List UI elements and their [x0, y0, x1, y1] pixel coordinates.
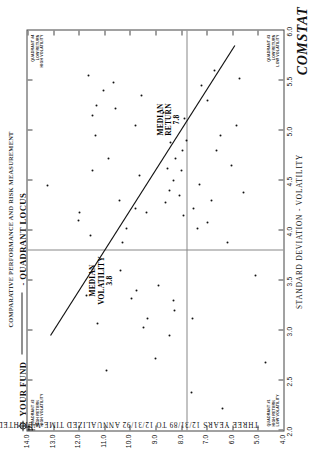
scatter-point — [183, 214, 185, 216]
y-axis-tick-label: 11.0 — [100, 434, 107, 455]
x-axis-tick — [28, 379, 33, 380]
y-axis-tick-label: 14.0 — [23, 434, 30, 455]
x-axis-tick — [279, 229, 284, 230]
scatter-point — [92, 169, 94, 171]
scatter-point — [155, 357, 157, 359]
legend-locus-rule — [21, 292, 22, 354]
x-axis-tick-label: 2.5 — [286, 376, 293, 386]
scatter-point — [213, 69, 215, 71]
quadrant-label-q4: QUADRANT #4 LOW RETURN HIGH VOLATILITY — [31, 34, 45, 67]
y-axis-tick — [284, 425, 285, 430]
quadrant-locus-line — [28, 30, 284, 430]
y-axis-tick-label: 12.0 — [74, 434, 81, 455]
quadrant-label-q3: QUADRANT #3 LOW RETURN LOW VOLATILITY — [266, 34, 280, 66]
y-axis-tick — [104, 30, 105, 35]
scatter-point — [169, 189, 171, 191]
x-axis-tick-label: 6.0 — [286, 26, 293, 36]
scatter-point — [181, 149, 183, 151]
median-return-value: 7.8 — [173, 93, 181, 145]
scatter-point — [89, 234, 91, 236]
scatter-point — [112, 81, 114, 83]
x-axis-tick — [279, 379, 284, 380]
scatter-point — [92, 114, 94, 116]
x-axis-tick — [28, 179, 33, 180]
y-axis-tick-label: 10.0 — [125, 434, 132, 455]
scatter-point — [139, 174, 141, 176]
median-volatility-text: MEDIAN VOLATILITY — [89, 254, 106, 306]
brand-logo: COMSTAT — [295, 6, 311, 75]
scatter-point — [180, 169, 182, 171]
scatter-point — [172, 299, 174, 301]
report-page: COMPARATIVE PERFORMANCE AND RISK MEASURE… — [3, 0, 316, 457]
quadrant-label-q1-number: QUADRANT #1 — [266, 394, 271, 426]
y-axis-tick — [53, 30, 54, 35]
scatter-point — [198, 183, 200, 185]
y-axis-tick-label: 4.0 — [279, 434, 286, 455]
y-axis-tick-label: 9.0 — [151, 434, 158, 455]
x-axis-tick — [279, 329, 284, 330]
x-axis-tick-label: 5.5 — [286, 76, 293, 86]
scatter-point — [125, 227, 127, 229]
scatter-point — [121, 241, 123, 243]
scatter-point — [172, 179, 174, 181]
x-axis-tick — [28, 279, 33, 280]
y-axis-title: THREE YEARS 12/31/89 TO 12/31/92 ANNUALI… — [59, 419, 259, 427]
scatter-point — [192, 317, 194, 319]
x-axis-tick — [28, 329, 33, 330]
scatter-plot-area[interactable]: QUADRANT #2 HIGH RETURN HIGH VOLATILITY … — [27, 29, 285, 431]
x-axis-tick — [279, 279, 284, 280]
quadrant-label-q3-number: QUADRANT #3 — [266, 34, 271, 66]
y-axis-tick — [130, 30, 131, 35]
y-axis-tick — [79, 30, 80, 35]
scatter-point — [166, 167, 168, 169]
y-axis-tick-label: 8.0 — [177, 434, 184, 455]
scatter-point — [146, 211, 148, 213]
x-axis-tick-label: 5.0 — [286, 126, 293, 136]
y-axis-tick-label: 7.0 — [202, 434, 209, 455]
scatter-point — [135, 289, 137, 291]
y-axis-tick — [156, 30, 157, 35]
y-axis-tick — [284, 30, 285, 35]
page-header-title: COMPARATIVE PERFORMANCE AND RISK MEASURE… — [7, 27, 14, 431]
x-axis-tick — [279, 179, 284, 180]
y-axis-tick — [232, 30, 233, 35]
x-axis-tick-label: 3.5 — [286, 276, 293, 286]
x-axis-tick — [279, 79, 284, 80]
median-return-text: MEDIAN RETURN — [156, 93, 173, 145]
scatter-point — [226, 241, 228, 243]
x-axis-tick-label: 3.0 — [286, 326, 293, 336]
quadrant-label-q4-line2: HIGH VOLATILITY — [40, 34, 45, 67]
quadrant-label-q3-line2: LOW VOLATILITY — [276, 34, 281, 66]
scatter-point — [134, 124, 136, 126]
y-axis-tick-label: 5.0 — [253, 434, 260, 455]
scatter-point — [235, 124, 237, 126]
scatter-point — [107, 157, 109, 159]
scatter-point — [140, 94, 142, 96]
quadrant-label-q1-line2: LOW VOLATILITY — [276, 394, 281, 426]
scatter-point — [134, 207, 136, 209]
scatter-point — [165, 201, 167, 203]
scatter-point — [185, 139, 187, 141]
y-axis-tick-label: 6.0 — [228, 434, 235, 455]
y-axis-tick — [258, 30, 259, 35]
y-axis-tick — [28, 30, 29, 35]
y-axis-tick — [181, 30, 182, 35]
scatter-point — [130, 297, 132, 299]
x-axis-tick-label: 4.0 — [286, 226, 293, 236]
scatter-point — [102, 89, 104, 91]
median-return-annotation: MEDIAN RETURN 7.8 — [156, 93, 181, 145]
scatter-point — [190, 391, 192, 393]
x-axis-tick — [28, 229, 33, 230]
scatter-point — [169, 334, 171, 336]
scatter-point — [221, 407, 223, 409]
x-axis-tick — [28, 79, 33, 80]
x-axis-tick-label: 4.5 — [286, 176, 293, 186]
scatter-point — [230, 164, 232, 166]
scatter-point — [119, 199, 121, 201]
y-axis-tick-label: 13.0 — [49, 434, 56, 455]
scatter-point — [96, 104, 98, 106]
scatter-point — [157, 284, 159, 286]
quadrant-label-q1: QUADRANT #1 HIGH RETURN LOW VOLATILITY — [266, 394, 280, 426]
chart-page: COMPARATIVE PERFORMANCE AND RISK MEASURE… — [3, 0, 316, 457]
x-axis-title: STANDARD DEVIATION - VOLATILITY — [296, 31, 304, 431]
